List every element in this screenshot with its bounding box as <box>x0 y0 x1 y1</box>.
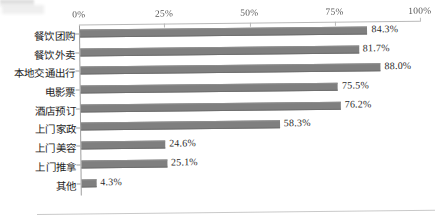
bar-value-label: 81.7% <box>363 42 390 53</box>
plot-area: 0%25%50%75%100% 餐饮团购84.3%餐饮外卖81.7%本地交通出行… <box>0 0 435 219</box>
category-label: 其他 <box>0 177 77 194</box>
bar-value-label: 25.1% <box>171 156 198 167</box>
bar-value-label: 75.5% <box>342 79 369 90</box>
bar-row: 其他4.3% <box>1 171 435 194</box>
bar-value-label: 24.6% <box>169 137 196 148</box>
bar <box>80 45 359 56</box>
bar-value-label: 58.3% <box>284 117 311 128</box>
bar-value-label: 4.3% <box>100 176 122 187</box>
category-label: 上门家政 <box>0 121 76 138</box>
bottom-rule <box>37 210 435 215</box>
x-axis-tick-label: 0% <box>72 9 85 19</box>
bar <box>82 179 97 187</box>
y-axis-tick-mark <box>76 146 80 147</box>
x-axis-tick-label: 25% <box>155 8 173 18</box>
bar-value-label: 76.2% <box>345 98 372 109</box>
x-axis-tick-mark <box>249 23 250 27</box>
category-label: 上门推拿 <box>0 158 77 175</box>
category-label: 上门美容 <box>0 140 76 157</box>
x-axis-tick-label: 75% <box>326 7 344 17</box>
y-axis-tick-mark <box>76 90 80 91</box>
bar-value-label: 88.0% <box>384 60 411 71</box>
bar-rows: 餐饮团购84.3%餐饮外卖81.7%本地交通出行88.0%电影票75.5%酒店预… <box>0 22 435 195</box>
bar <box>81 141 165 150</box>
x-axis-tick-label: 50% <box>240 8 258 18</box>
y-axis-tick-mark <box>75 52 79 53</box>
x-axis-tick-mark <box>164 24 165 28</box>
y-axis-tick-mark <box>76 127 80 128</box>
category-label: 电影票 <box>0 84 76 101</box>
y-axis-tick-mark <box>77 183 81 184</box>
y-axis-tick-mark <box>76 108 80 109</box>
bar <box>80 26 368 37</box>
bar-value-label: 84.3% <box>371 23 398 34</box>
y-axis-tick-mark <box>75 33 79 34</box>
bar-chart: 0%25%50%75%100% 餐饮团购84.3%餐饮外卖81.7%本地交通出行… <box>0 0 435 219</box>
category-label: 餐饮团购 <box>0 28 75 45</box>
y-axis-tick-mark <box>75 71 79 72</box>
y-axis-tick-mark <box>76 164 80 165</box>
category-label: 本地交通出行 <box>0 65 76 82</box>
x-axis-end-cap <box>420 18 421 22</box>
x-axis-tick-mark <box>335 22 336 26</box>
category-label: 餐饮外卖 <box>0 46 75 63</box>
bar <box>81 159 167 168</box>
bar <box>81 121 280 131</box>
bar <box>81 83 339 94</box>
bar <box>80 64 380 75</box>
bar <box>81 101 341 112</box>
x-axis-tick-label: 100% <box>408 6 431 16</box>
category-label: 酒店预订 <box>0 102 76 119</box>
